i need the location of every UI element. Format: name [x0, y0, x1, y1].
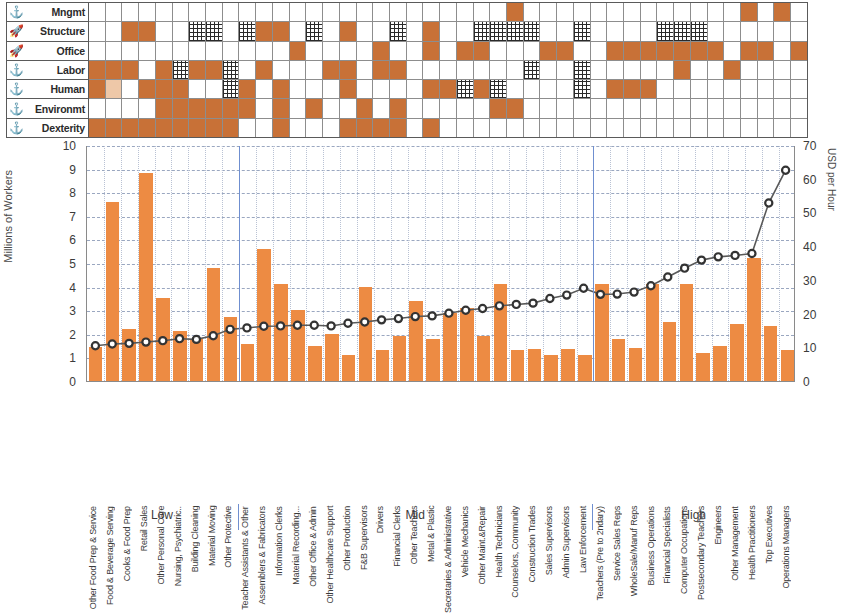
matrix-cell [457, 42, 474, 60]
matrix-cell [524, 99, 541, 117]
matrix-cell [189, 3, 206, 21]
matrix-cell [256, 61, 273, 79]
matrix-cell [674, 119, 691, 137]
matrix-cell [440, 80, 457, 98]
bar [308, 346, 322, 381]
matrix-cell [507, 42, 524, 60]
bar [257, 249, 271, 381]
matrix-cell [741, 119, 758, 137]
matrix-cell [674, 80, 691, 98]
matrix-cell [340, 3, 357, 21]
matrix-cell [674, 99, 691, 117]
matrix-cell [708, 42, 725, 60]
matrix-cell [457, 61, 474, 79]
matrix-cell-row [89, 61, 807, 80]
matrix-cell [290, 42, 307, 60]
matrix-cell [256, 99, 273, 117]
x-axis-labels: Other Food Prep & ServiceFood & Beverage… [86, 384, 795, 506]
matrix-cell [106, 42, 123, 60]
matrix-cell [357, 61, 374, 79]
line-marker [563, 291, 570, 298]
matrix-cell [490, 42, 507, 60]
bar [190, 339, 204, 381]
matrix-cell [624, 61, 641, 79]
matrix-cell [306, 119, 323, 137]
matrix-cell [173, 42, 190, 60]
matrix-cell [708, 22, 725, 40]
matrix-cell [407, 80, 424, 98]
matrix-cell [774, 99, 791, 117]
matrix-cell [223, 3, 240, 21]
matrix-cell [641, 80, 658, 98]
matrix-cell [591, 61, 608, 79]
gridline-vertical [627, 146, 628, 381]
bar [207, 268, 221, 381]
matrix-cell [357, 3, 374, 21]
y-tick-left: 4 [69, 281, 76, 295]
bar [561, 349, 575, 381]
matrix-cell [791, 61, 807, 79]
matrix-cell [423, 3, 440, 21]
chart-plot-area [86, 146, 795, 382]
matrix-cell [691, 42, 708, 60]
bar [139, 173, 153, 381]
matrix-cell [189, 80, 206, 98]
matrix-cell [624, 42, 641, 60]
matrix-cell [691, 119, 708, 137]
matrix-cell [641, 61, 658, 79]
y-tick-left: 1 [69, 351, 76, 365]
matrix-cell [256, 22, 273, 40]
line-marker [378, 316, 385, 323]
matrix-cell [440, 22, 457, 40]
matrix-cell [708, 61, 725, 79]
matrix-cell [390, 42, 407, 60]
matrix-cell [574, 42, 591, 60]
matrix-cell [239, 3, 256, 21]
gridline-vertical [543, 146, 544, 381]
matrix-row-label: Structure [25, 25, 85, 37]
matrix-cell [423, 99, 440, 117]
matrix-cell-row [89, 80, 807, 99]
bar [89, 347, 103, 381]
matrix-cell [507, 99, 524, 117]
bar [595, 284, 609, 381]
matrix-cell [641, 119, 658, 137]
matrix-cell [223, 99, 240, 117]
matrix-cell [774, 22, 791, 40]
matrix-cell [540, 42, 557, 60]
matrix-cell [524, 22, 541, 40]
gridline-horizontal [87, 240, 794, 241]
matrix-cell [306, 42, 323, 60]
bar [376, 350, 390, 381]
matrix-cell [540, 61, 557, 79]
y-axis-left-title: Millions of Workers [2, 170, 18, 263]
matrix-cell [357, 22, 374, 40]
rocket-icon: 🚀 [9, 44, 23, 58]
matrix-cell [557, 80, 574, 98]
matrix-cell [273, 80, 290, 98]
matrix-cell [657, 3, 674, 21]
matrix-cell [607, 80, 624, 98]
matrix-cell [490, 99, 507, 117]
bar [629, 348, 643, 381]
matrix-cell [122, 119, 139, 137]
matrix-cell [724, 3, 741, 21]
matrix-cell [239, 119, 256, 137]
matrix-cell [657, 80, 674, 98]
matrix-cell [89, 61, 106, 79]
bar [224, 317, 238, 381]
matrix-cell [89, 22, 106, 40]
bar [342, 355, 356, 381]
y-tick-left: 9 [69, 163, 76, 177]
matrix-cell [173, 99, 190, 117]
matrix-cell [256, 80, 273, 98]
matrix-cell [557, 3, 574, 21]
bar [511, 350, 525, 381]
matrix-cell [239, 42, 256, 60]
matrix-cell [390, 3, 407, 21]
matrix-cell [340, 119, 357, 137]
line-marker [681, 265, 688, 272]
matrix-cell [490, 119, 507, 137]
matrix-cell [641, 42, 658, 60]
matrix-cell [474, 80, 491, 98]
